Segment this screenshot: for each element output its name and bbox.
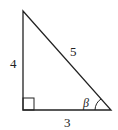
hypotenuse-label: 5 bbox=[70, 44, 77, 59]
triangle bbox=[23, 11, 111, 110]
vertical-side-label: 4 bbox=[10, 56, 17, 71]
horizontal-side-label: 3 bbox=[64, 115, 71, 130]
angle-label: β bbox=[82, 96, 89, 110]
right-triangle-diagram: 4 5 3 β bbox=[0, 0, 118, 130]
right-angle-marker bbox=[23, 98, 34, 110]
angle-arc bbox=[95, 99, 101, 110]
